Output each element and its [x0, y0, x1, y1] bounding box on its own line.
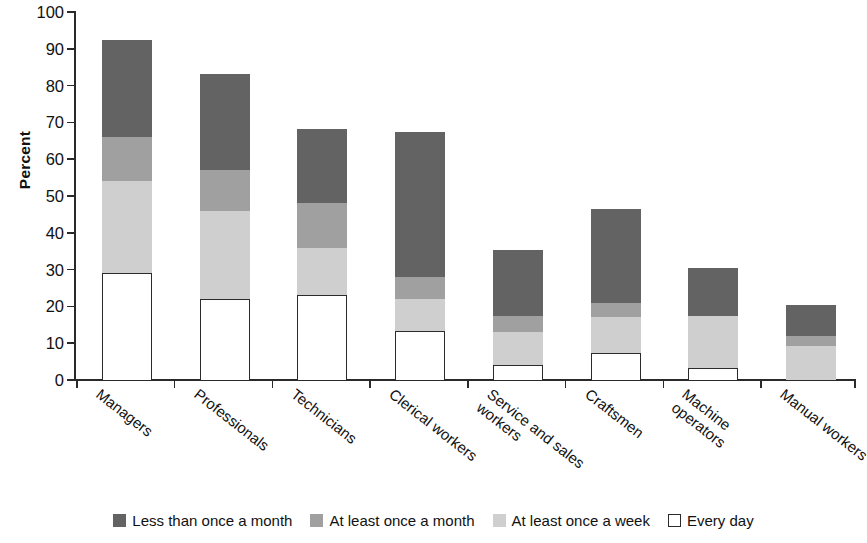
bar-segment-every-day[interactable] — [688, 368, 738, 380]
y-axis-tick — [67, 306, 74, 308]
legend-item-at-least-once-a-week[interactable]: At least once a week — [493, 512, 650, 529]
bar-segment-every-day[interactable] — [102, 273, 152, 380]
bar-clerical-workers[interactable] — [395, 132, 445, 380]
y-axis-line — [74, 11, 76, 381]
stacked-bar-chart: Percent 0102030405060708090100 ManagersP… — [0, 0, 867, 543]
y-axis-tick-label: 70 — [20, 114, 64, 131]
bar-segment-every-day[interactable] — [395, 331, 445, 380]
bar-segment-at-least-once-a-month[interactable] — [493, 316, 543, 333]
legend-label: At least once a month — [329, 512, 474, 529]
bar-craftsmen[interactable] — [591, 209, 641, 380]
bar-segment-at-least-once-a-month[interactable] — [102, 137, 152, 181]
x-axis-category-label: Managers — [93, 386, 156, 440]
bar-manual-workers[interactable] — [786, 305, 836, 380]
legend-label: Less than once a month — [132, 512, 292, 529]
y-axis-tick-label: 20 — [20, 298, 64, 315]
x-axis-category-label: Craftsmen — [581, 386, 646, 442]
bar-technicians[interactable] — [297, 129, 347, 380]
bar-segment-less-than-once-a-month[interactable] — [395, 132, 445, 277]
x-axis-category-label: Technicians — [288, 386, 360, 447]
y-axis-tick — [67, 342, 74, 344]
bar-segment-less-than-once-a-month[interactable] — [200, 74, 250, 171]
x-axis-category-label: Machine operators — [669, 386, 740, 451]
y-axis-tick — [67, 48, 74, 50]
bar-segment-less-than-once-a-month[interactable] — [688, 268, 738, 316]
y-axis-tick — [67, 195, 74, 197]
y-axis-tick-label: 30 — [20, 262, 64, 279]
bar-segment-less-than-once-a-month[interactable] — [591, 209, 641, 303]
y-axis-tick — [67, 122, 74, 124]
bar-segment-every-day[interactable] — [200, 299, 250, 380]
bar-segment-every-day[interactable] — [591, 353, 641, 380]
bar-segment-less-than-once-a-month[interactable] — [297, 129, 347, 204]
bar-segment-every-day[interactable] — [297, 295, 347, 380]
y-axis-tick — [67, 85, 74, 87]
bar-segment-at-least-once-a-week[interactable] — [395, 299, 445, 331]
bar-segment-at-least-once-a-week[interactable] — [200, 211, 250, 299]
bar-segment-less-than-once-a-month[interactable] — [493, 250, 543, 316]
chart-legend: Less than once a monthAt least once a mo… — [0, 505, 867, 535]
swatch-less-than-once-a-month-icon — [113, 514, 126, 527]
bar-segment-at-least-once-a-week[interactable] — [688, 316, 738, 369]
bar-segment-at-least-once-a-month[interactable] — [395, 277, 445, 299]
y-axis-tick-label: 100 — [20, 4, 64, 21]
legend-item-every-day[interactable]: Every day — [668, 512, 754, 529]
y-axis-tick-labels: 0102030405060708090100 — [20, 12, 64, 380]
y-axis-tick — [67, 269, 74, 271]
x-axis-category-label: Clerical workers — [386, 386, 480, 465]
bar-segment-at-least-once-a-week[interactable] — [591, 317, 641, 352]
legend-item-at-least-once-a-month[interactable]: At least once a month — [310, 512, 474, 529]
bar-managers[interactable] — [102, 40, 152, 380]
bar-segment-at-least-once-a-month[interactable] — [591, 303, 641, 318]
bar-segment-at-least-once-a-week[interactable] — [493, 332, 543, 364]
bar-segment-at-least-once-a-week[interactable] — [102, 181, 152, 272]
legend-label: Every day — [687, 512, 754, 529]
y-axis-tick-label: 90 — [20, 41, 64, 58]
y-axis-tick-label: 60 — [20, 151, 64, 168]
legend-label: At least once a week — [512, 512, 650, 529]
y-axis-tick-label: 80 — [20, 78, 64, 95]
x-axis-line — [74, 379, 856, 381]
y-axis-tick — [67, 11, 74, 13]
plot-area — [74, 12, 856, 380]
bar-segment-at-least-once-a-month[interactable] — [200, 170, 250, 210]
bar-segment-at-least-once-a-week[interactable] — [786, 346, 836, 380]
bar-machine-operators[interactable] — [688, 268, 738, 380]
bar-segment-every-day[interactable] — [493, 365, 543, 380]
legend-item-less-than-once-a-month[interactable]: Less than once a month — [113, 512, 292, 529]
bar-segment-less-than-once-a-month[interactable] — [102, 40, 152, 137]
x-axis-category-label: Service and sales workers — [473, 386, 587, 485]
bar-segment-at-least-once-a-month[interactable] — [297, 203, 347, 247]
y-axis-tick — [67, 232, 74, 234]
y-axis-tick-label: 10 — [20, 335, 64, 352]
y-axis-tick-label: 50 — [20, 188, 64, 205]
bar-segment-at-least-once-a-week[interactable] — [297, 248, 347, 295]
bar-professionals[interactable] — [200, 73, 250, 380]
bar-segment-less-than-once-a-month[interactable] — [786, 305, 836, 336]
swatch-every-day-icon — [668, 514, 681, 527]
y-axis-tick — [67, 379, 74, 381]
bar-service-and-sales-workers[interactable] — [493, 250, 543, 380]
x-axis-category-label: Professionals — [190, 386, 271, 455]
swatch-at-least-once-a-month-icon — [310, 514, 323, 527]
x-axis-category-label: Manual workers — [777, 386, 867, 464]
y-axis-tick — [67, 158, 74, 160]
swatch-at-least-once-a-week-icon — [493, 514, 506, 527]
bar-segment-at-least-once-a-month[interactable] — [786, 336, 836, 346]
x-axis-category-labels: ManagersProfessionalsTechniciansClerical… — [74, 386, 856, 498]
y-axis-tick-label: 0 — [20, 372, 64, 389]
y-axis-tick-label: 40 — [20, 225, 64, 242]
